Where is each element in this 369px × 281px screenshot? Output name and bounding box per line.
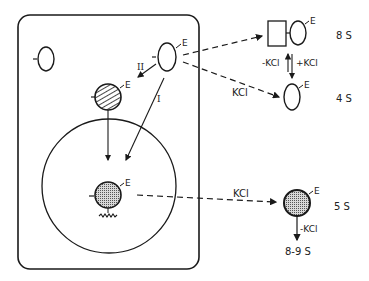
nuclear-particle: E: [89, 178, 131, 217]
kcl-label-4s: KCl: [232, 87, 248, 98]
free-receptor: [33, 47, 54, 71]
complex-4s: E 4 S: [284, 80, 352, 110]
path-i-arrow: [126, 78, 164, 160]
complex-5s: E 5 S -KCl 8-9 S: [284, 186, 350, 257]
sedimentation-8s: 8 S: [336, 30, 352, 41]
sedimentation-8-9s: 8-9 S: [285, 246, 311, 257]
estrogen-label: E: [310, 16, 316, 26]
sedimentation-4s: 4 S: [336, 93, 352, 104]
cytoplasmic-receptor: E: [152, 38, 188, 71]
dashed-arrow-to-5s: [137, 195, 276, 202]
plus-kcl-label: +KCl: [296, 58, 318, 68]
sedimentation-5s: 5 S: [334, 201, 350, 212]
estrogen-label: E: [314, 186, 320, 196]
complex-8s: E 8 S: [268, 16, 352, 46]
receptor-diagram: E II E I E KCl KCl E 8 S: [0, 0, 369, 281]
equilibrium-arrows: -KCl +KCl: [262, 54, 318, 78]
path-i-label: I: [157, 94, 161, 104]
hatched-particle: E: [91, 80, 131, 110]
estrogen-label: E: [125, 80, 131, 90]
estrogen-label: E: [182, 38, 188, 48]
path-ii-label: II: [137, 62, 145, 72]
kcl-label-5s: KCl: [233, 188, 249, 199]
estrogen-label: E: [125, 178, 131, 188]
estrogen-label: E: [304, 80, 310, 90]
dna-icon: [99, 214, 117, 217]
minus-kcl-label-5s: -KCl: [300, 224, 317, 234]
minus-kcl-label: -KCl: [262, 58, 279, 68]
dashed-arrow-to-8s: [183, 36, 262, 55]
